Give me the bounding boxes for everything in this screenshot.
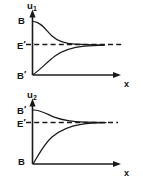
x-axis-label-u2: x — [124, 169, 129, 178]
level-label-b-prime-u2: B′ — [17, 104, 26, 115]
x-axis-label-u2-text: x — [124, 168, 129, 178]
level-label-b-u1: B — [18, 16, 25, 26]
level-label-e-prime-u2: E′ — [17, 117, 26, 128]
level-label-b-prime-u1: B′ — [17, 69, 26, 80]
y-axis-label-u2-subscript: 2 — [33, 94, 37, 101]
chart-panel-u1: u1 B E′ B′ x — [0, 0, 143, 89]
y-axis-label-u2: u2 — [27, 90, 37, 101]
level-label-e-prime-u1: E′ — [17, 39, 26, 50]
y-axis-label-u1: u1 — [27, 1, 37, 12]
curve-lower-rise-u2 — [34, 123, 105, 164]
curve-lower-rise-u1 — [34, 45, 105, 74]
level-label-b-u1-text: B — [18, 15, 25, 26]
curve-upper-decay-u2 — [34, 110, 107, 123]
y-axis-label-u1-text: u — [27, 0, 33, 11]
level-label-b-u2-text: B — [18, 156, 25, 167]
curve-upper-decay-u1 — [34, 22, 105, 46]
level-label-b-prime-u2-mark: ′ — [24, 103, 26, 114]
x-axis-label-u1: x — [124, 80, 129, 89]
x-axis-arrow-head-u2 — [113, 161, 121, 167]
level-label-e-prime-u2-mark: ′ — [23, 116, 25, 127]
level-label-b-u2: B — [18, 157, 25, 167]
figure-root: u1 B E′ B′ x — [0, 0, 143, 178]
y-axis-label-u1-subscript: 1 — [33, 5, 37, 12]
level-label-e-prime-u1-mark: ′ — [23, 38, 25, 49]
chart-panel-u2: u2 B′ E′ B x — [0, 89, 143, 178]
level-label-b-prime-u2-text: B — [17, 105, 24, 116]
level-label-b-prime-u1-mark: ′ — [24, 68, 26, 79]
x-axis-label-u1-text: x — [124, 79, 129, 89]
level-label-b-prime-u1-text: B — [17, 70, 24, 81]
x-axis-arrow-head-u1 — [113, 72, 121, 78]
y-axis-label-u2-text: u — [27, 89, 33, 100]
